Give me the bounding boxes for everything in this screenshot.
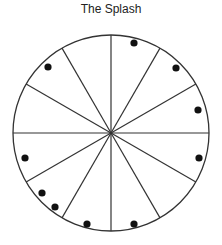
sector-spokes	[13, 35, 209, 231]
dot	[130, 39, 137, 46]
spoke-line	[26, 133, 111, 182]
dot	[21, 154, 28, 161]
spoke-line	[62, 48, 111, 133]
dot	[194, 106, 201, 113]
dot	[38, 189, 45, 196]
spoke-line	[111, 133, 160, 218]
spoke-line	[111, 84, 196, 133]
dot	[172, 64, 179, 71]
dot	[195, 154, 202, 161]
dot	[83, 220, 90, 227]
dot	[51, 203, 58, 210]
dot	[130, 220, 137, 227]
spoke-line	[26, 84, 111, 133]
spoke-line	[111, 48, 160, 133]
dot	[44, 63, 51, 70]
splash-wheel	[0, 0, 222, 245]
spoke-line	[111, 133, 196, 182]
spoke-line	[62, 133, 111, 218]
